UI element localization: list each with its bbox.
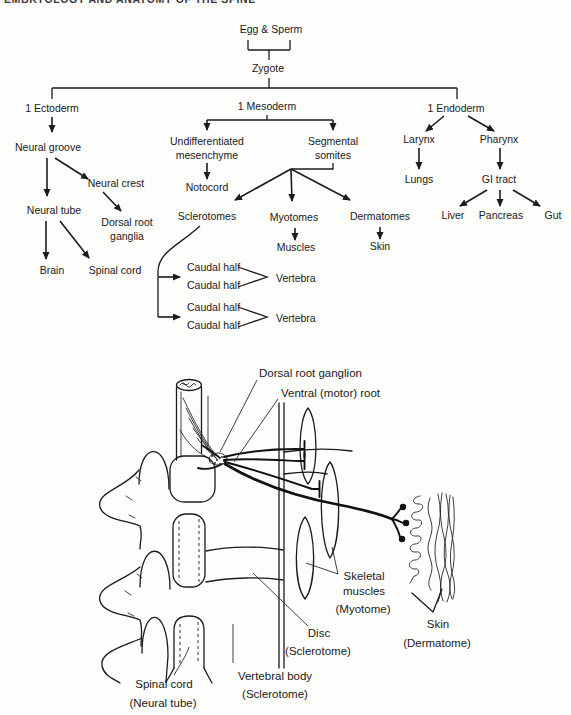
- arrow-endoderm-to-pharynx: [468, 116, 494, 131]
- label-spinal-cord-line1: Spinal cord: [135, 678, 193, 690]
- facet-blob: [170, 456, 215, 502]
- node-liver: Liver: [442, 209, 465, 221]
- muscle-myotome-2: [321, 462, 338, 558]
- node-endoderm: 1 Endoderm: [427, 102, 484, 114]
- label-ventral-motor-root: Ventral (motor) root: [281, 387, 381, 399]
- leader-skeletal-muscles-a: [306, 563, 338, 574]
- node-myotomes: Myotomes: [270, 211, 318, 223]
- node-neural-tube: Neural tube: [27, 204, 81, 216]
- leader-ventral-motor-root: [234, 399, 278, 462]
- spinous-bump-1: [100, 470, 142, 549]
- label-skeletal-line3: (Myotome): [336, 603, 391, 615]
- node-vertebra-1: Vertebra: [276, 272, 316, 284]
- label-vertebral-body-line2: (Sclerotome): [242, 688, 308, 700]
- arrow-neural-tube-to-spinal-cord: [60, 221, 89, 258]
- node-larynx: Larynx: [403, 133, 435, 145]
- arrow-gi-tract-to-liver: [460, 190, 487, 206]
- pedicle-cylinder-middle: [173, 514, 205, 587]
- spinous-bump-2: [100, 567, 142, 646]
- node-zygote: Zygote: [252, 62, 284, 74]
- label-skin-line1: Skin: [427, 618, 449, 630]
- node-sclerotomes: Sclerotomes: [178, 210, 236, 222]
- nerve-branch-upper: [224, 449, 297, 457]
- disc-band-top: [206, 547, 283, 551]
- muscle-myotome-3: [296, 517, 313, 599]
- node-pancreas: Pancreas: [479, 209, 523, 221]
- node-notocord: Notocord: [186, 181, 229, 193]
- disc-band-bottom: [206, 578, 283, 582]
- node-gi-tract: GI tract: [482, 173, 517, 185]
- embryology-flowchart: Egg & Sperm Zygote 1 Ectoderm Neural gro…: [0, 0, 571, 345]
- sensory-terminals: [392, 504, 409, 542]
- cylinder-bottom-shading: [180, 622, 198, 663]
- cord-cut-scribble: [180, 383, 196, 387]
- pedicle-middle-shading: [179, 519, 199, 582]
- nerve-rootlet-fibers: [180, 398, 217, 459]
- label-skeletal-line2: muscles: [343, 585, 385, 597]
- arrow-somites-to-myotomes: [291, 169, 292, 201]
- node-spinal-cord: Spinal cord: [89, 264, 142, 276]
- spinous-finger-3: [142, 617, 168, 682]
- arrow-somites-to-dermatomes: [291, 169, 350, 200]
- leader-spinal-cord: [174, 647, 189, 675]
- arrow-endoderm-to-larynx: [426, 116, 444, 131]
- skin-dermatome-texture: [409, 493, 454, 612]
- label-disc-line2: (Sclerotome): [285, 645, 351, 657]
- skin-wave-line: [428, 498, 432, 590]
- arrow-neural-groove-to-neural-crest: [55, 158, 88, 179]
- node-somites-line2: somites: [315, 149, 351, 161]
- arrow-gi-tract-to-gut: [513, 190, 540, 206]
- label-skeletal-line1: Skeletal: [344, 570, 385, 582]
- cylinder-bottom: [174, 616, 204, 668]
- spinous-finger-2: [140, 551, 170, 589]
- node-dorsal-root-ganglia-line2: ganglia: [110, 230, 144, 242]
- skin-fiber-band: [435, 493, 455, 602]
- skin-wedge: [412, 589, 442, 612]
- cord-walls: [177, 387, 202, 460]
- arrow-somites-to-sclerotomes: [235, 169, 291, 200]
- spinous-finger-1: [139, 452, 169, 489]
- node-brain: Brain: [40, 264, 65, 276]
- somites-stem: [291, 163, 333, 169]
- node-mesenchyme-line2: mesenchyme: [176, 149, 239, 161]
- spinal-nerve: [198, 441, 409, 542]
- spinous-processes-outline: [100, 452, 170, 683]
- textbook-figure-page: EMBRYOLOGY AND ANATOMY OF THE SPINE: [0, 0, 571, 715]
- label-spinal-cord-line2: (Neural tube): [129, 697, 196, 709]
- caudal-halves-converge-1: [238, 267, 267, 287]
- node-egg-sperm: Egg & Sperm: [240, 23, 303, 35]
- leader-dorsal-root-ganglion: [220, 380, 257, 452]
- node-mesenchyme-line1: Undifferentiated: [170, 135, 244, 147]
- node-caudal-half-1b: Caudal half: [187, 279, 240, 291]
- label-skin-line2: (Dermatome): [403, 637, 471, 649]
- egg-sperm-bracket: [248, 40, 290, 60]
- node-caudal-half-2a: Caudal half: [187, 301, 240, 313]
- node-lungs: Lungs: [405, 173, 434, 185]
- pedicle-cylinders: [166, 514, 212, 683]
- node-caudal-half-1a: Caudal half: [187, 261, 240, 273]
- mesoderm-bracket: [207, 115, 333, 120]
- arrow-neural-crest-to-dorsal-root-ganglia: [103, 192, 121, 211]
- spinal-cord-cylinder: [170, 380, 217, 503]
- node-muscles: Muscles: [277, 241, 316, 253]
- body-edge-lower: [284, 472, 327, 474]
- node-caudal-half-2b: Caudal half: [187, 319, 240, 331]
- node-dermatomes: Dermatomes: [350, 210, 410, 222]
- node-pharynx: Pharynx: [480, 133, 519, 145]
- node-somites-line1: Segmental: [308, 135, 358, 147]
- flowchart-nodes: Egg & Sperm Zygote 1 Ectoderm Neural gro…: [15, 23, 562, 331]
- spine-anatomy-illustration: Dorsal root ganglion Ventral (motor) roo…: [0, 345, 571, 715]
- node-gut: Gut: [545, 209, 562, 221]
- column-front-edges: [279, 403, 284, 668]
- leader-skeletal-muscles-b: [332, 547, 338, 574]
- node-vertebra-2: Vertebra: [276, 312, 316, 324]
- node-mesoderm: 1 Mesoderm: [238, 100, 297, 112]
- node-neural-groove: Neural groove: [15, 141, 81, 153]
- spinous-bump-3: [102, 638, 142, 683]
- label-vertebral-body-line1: Vertebral body: [238, 670, 312, 682]
- label-dorsal-root-ganglion: Dorsal root ganglion: [259, 367, 362, 379]
- caudal-halves-converge-2: [238, 307, 267, 327]
- skin-loop-line: [409, 496, 422, 583]
- leader-disc: [253, 573, 308, 626]
- label-disc-line1: Disc: [308, 627, 331, 639]
